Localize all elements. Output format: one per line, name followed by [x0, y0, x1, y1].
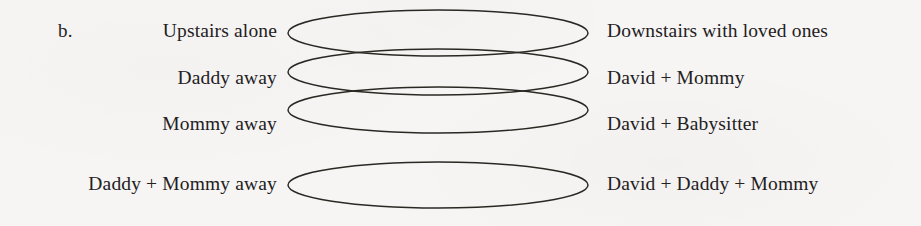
panel-letter: b.: [58, 19, 73, 43]
left-label-row-0: Upstairs alone: [163, 19, 277, 43]
right-label-row-3: David + Daddy + Mommy: [607, 172, 818, 196]
ellipse-shape-0: [288, 10, 588, 56]
left-label-row-3: Daddy + Mommy away: [88, 172, 277, 196]
right-label-row-0: Downstairs with loved ones: [607, 19, 828, 43]
right-label-row-1: David + Mommy: [607, 66, 745, 90]
right-label-row-2: David + Babysitter: [607, 112, 758, 136]
left-label-row-2: Mommy away: [162, 112, 277, 136]
ellipse-shape-2: [288, 87, 588, 133]
ellipse-shape-3: [288, 162, 588, 208]
figure-panel: b. Upstairs alone Daddy away Mommy away …: [0, 0, 921, 226]
left-label-row-1: Daddy away: [177, 66, 277, 90]
ellipse-shape-1: [288, 49, 588, 95]
